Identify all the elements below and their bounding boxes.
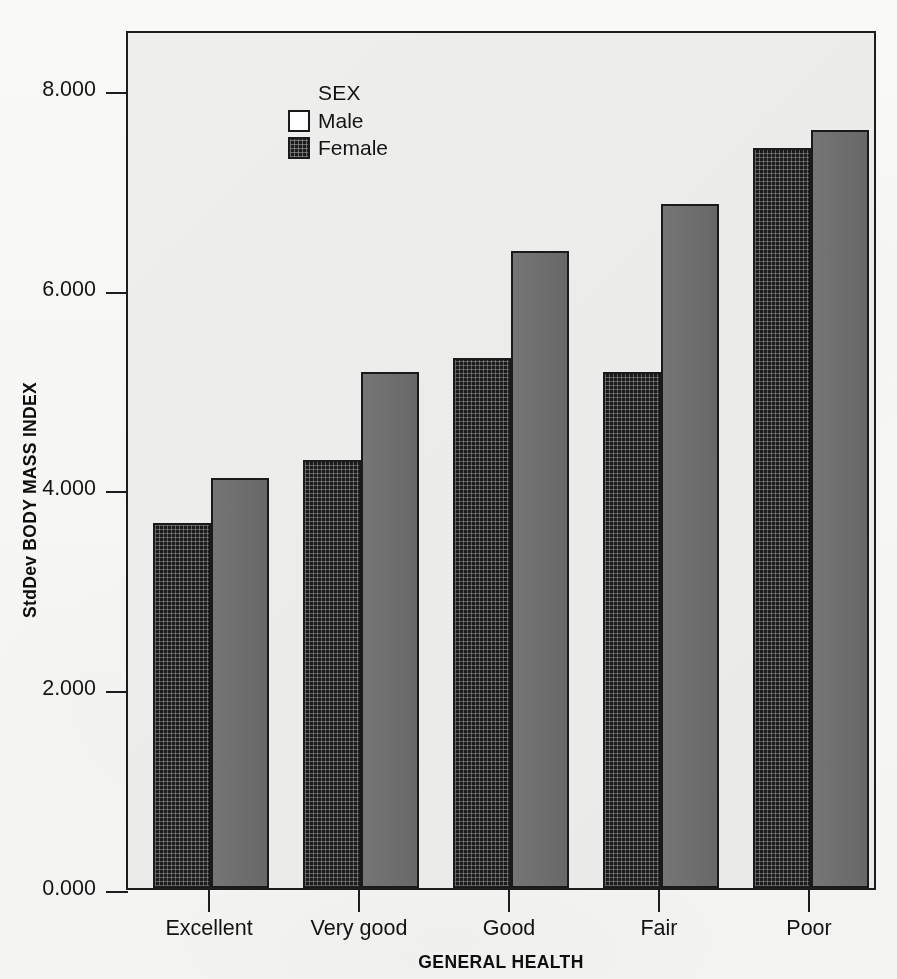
x-axis-tick-label: Excellent [165,916,252,941]
y-axis-tick-label: 8.000 [4,77,96,102]
x-axis-tick-label: Poor [786,916,831,941]
legend-item-label: Male [318,109,364,133]
y-axis-tick [106,491,128,493]
legend: SEX MaleFemale [288,81,458,163]
bar-female-good [511,251,569,888]
chart-page: 8.0006.0004.0002.0000.000 StdDev BODY MA… [0,0,897,979]
y-axis-tick [106,92,128,94]
legend-item-female: Female [288,136,458,160]
bar-male-poor [753,148,811,888]
bar-female-excellent [211,478,269,888]
x-axis-tick-label: Fair [640,916,677,941]
x-axis-tick [358,890,360,912]
x-axis-tick [808,890,810,912]
bar-female-poor [811,130,869,888]
bar-male-good [453,358,511,888]
y-axis-tick [106,292,128,294]
bar-female-fair [661,204,719,888]
x-axis: ExcellentVery goodGoodFairPoor GENERAL H… [126,890,876,970]
bar-female-very-good [361,372,419,888]
empty-square-swatch [288,110,310,132]
x-axis-tick [208,890,210,912]
x-axis-tick-label: Good [483,916,536,941]
bar-male-fair [603,372,661,888]
y-axis-tick [106,891,128,893]
legend-title: SEX [318,81,458,105]
y-axis-tick-label: 6.000 [4,277,96,302]
x-axis-tick-label: Very good [311,916,408,941]
y-axis-title: StdDev BODY MASS INDEX [20,290,41,710]
x-axis-tick [508,890,510,912]
y-axis-tick-label: 2.000 [4,676,96,701]
bar-male-excellent [153,523,211,888]
legend-entries: MaleFemale [288,109,458,160]
y-axis-tick [106,691,128,693]
plot-frame: SEX MaleFemale [126,31,876,890]
legend-item-label: Female [318,136,388,160]
x-axis-tick [658,890,660,912]
y-axis-tick-label: 4.000 [4,476,96,501]
x-axis-title: GENERAL HEALTH [126,952,876,973]
crosshatch-square-swatch [288,137,310,159]
y-axis-tick-label: 0.000 [4,876,96,901]
bar-male-very-good [303,460,361,889]
legend-item-male: Male [288,109,458,133]
